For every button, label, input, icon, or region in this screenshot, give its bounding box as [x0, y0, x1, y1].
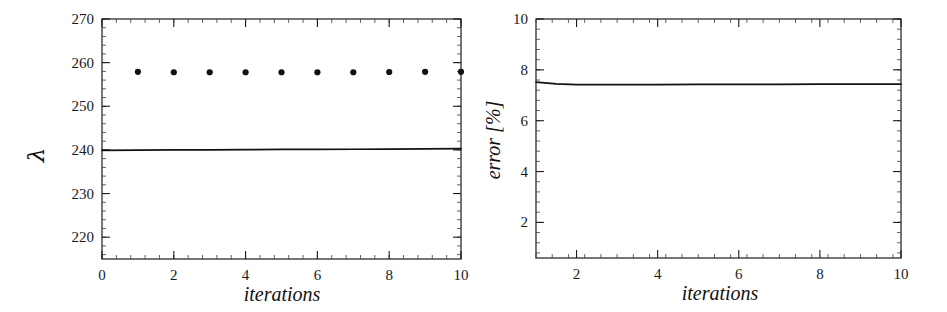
- x-axis-tick-labels: 0246810: [98, 267, 468, 283]
- chart-panel-error: 246810 246810 error [%] iterations: [470, 0, 947, 312]
- y-tick-label: 250: [72, 98, 95, 114]
- error-plot-svg: 246810 246810 error [%] iterations: [470, 0, 947, 312]
- x-tick-label: 2: [170, 267, 178, 283]
- data-point: [350, 69, 356, 75]
- x-tick-label: 6: [735, 266, 743, 282]
- y-axis-ticks: [536, 19, 901, 253]
- reference-eigenvalue-line: [102, 149, 461, 151]
- y-axis-title: error [%]: [482, 101, 504, 180]
- y-tick-label: 10: [513, 11, 528, 27]
- y-tick-label: 270: [72, 11, 95, 27]
- x-tick-label: 4: [654, 266, 662, 282]
- y-tick-label: 240: [72, 142, 95, 158]
- y-tick-label: 220: [72, 229, 95, 245]
- x-tick-label: 6: [314, 267, 322, 283]
- data-point: [171, 69, 177, 75]
- computed-eigenvalue-points: [135, 69, 464, 76]
- data-point: [243, 69, 249, 75]
- x-axis-ticks: [102, 19, 461, 259]
- y-tick-label: 2: [521, 214, 529, 230]
- data-point: [422, 69, 428, 75]
- x-axis-ticks: [536, 19, 901, 258]
- y-tick-label: 8: [521, 62, 529, 78]
- x-tick-label: 4: [242, 267, 250, 283]
- eigenvalue-plot-svg: 220230240250260270 0246810 λ iterations: [0, 0, 470, 312]
- data-point: [278, 69, 284, 75]
- data-point: [458, 69, 464, 75]
- data-point: [135, 69, 141, 75]
- chart-panel-eigenvalue: 220230240250260270 0246810 λ iterations: [0, 0, 470, 312]
- x-axis-title: iterations: [244, 283, 321, 305]
- data-point: [207, 69, 213, 75]
- x-tick-label: 8: [816, 266, 824, 282]
- data-point: [314, 69, 320, 75]
- y-axis-title: λ: [23, 148, 49, 164]
- y-tick-label: 4: [521, 164, 529, 180]
- x-tick-label: 0: [98, 267, 106, 283]
- x-tick-label: 10: [894, 266, 909, 282]
- data-point: [386, 69, 392, 75]
- x-tick-label: 8: [385, 267, 393, 283]
- y-axis-tick-labels: 220230240250260270: [72, 11, 95, 245]
- x-tick-label: 2: [573, 266, 581, 282]
- y-axis-tick-labels: 246810: [513, 11, 529, 230]
- x-tick-label: 10: [454, 267, 469, 283]
- y-axis-ticks: [102, 19, 461, 255]
- error-curve-line: [536, 82, 901, 85]
- y-tick-label: 230: [72, 186, 95, 202]
- y-tick-label: 6: [521, 113, 529, 129]
- figure-container: 220230240250260270 0246810 λ iterations …: [0, 0, 947, 312]
- plot-frame: [102, 19, 461, 259]
- x-axis-title: iterations: [682, 282, 759, 304]
- plot-frame: [536, 19, 901, 258]
- x-axis-tick-labels: 246810: [573, 266, 909, 282]
- y-tick-label: 260: [72, 55, 95, 71]
